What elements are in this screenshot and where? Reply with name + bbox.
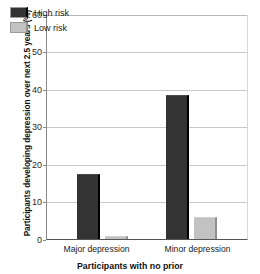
x-tick-label-minor-depression: Minor depression <box>147 244 248 254</box>
y-tick-label-10: 10 <box>16 198 42 207</box>
y-tick-label-40: 40 <box>16 86 42 95</box>
y-tick-label-20: 20 <box>16 161 42 170</box>
gridline-30 <box>47 127 247 128</box>
legend: High risk Low risk <box>10 6 69 34</box>
y-tick-label-30: 30 <box>16 123 42 132</box>
dark-swatch-icon <box>10 7 28 18</box>
x-axis-title: Participants with no prior <box>0 261 260 271</box>
legend-label-low-risk: Low risk <box>34 23 67 33</box>
bar-major-high-risk <box>77 174 100 239</box>
gridline-50 <box>47 52 247 53</box>
gridline-60 <box>47 15 247 16</box>
light-swatch-icon <box>10 22 28 33</box>
gridline-40 <box>47 90 247 91</box>
legend-label-high-risk: High risk <box>34 8 69 18</box>
bar-minor-high-risk <box>166 95 189 239</box>
y-tick-mark-0 <box>43 240 46 241</box>
legend-item-high-risk: High risk <box>10 6 69 19</box>
gridline-20 <box>47 165 247 166</box>
legend-item-low-risk: Low risk <box>10 21 69 34</box>
bar-major-low-risk <box>105 236 128 239</box>
y-tick-label-0: 0 <box>16 236 42 245</box>
plot-area <box>46 15 248 240</box>
bar-chart: Participants developing depression over … <box>0 0 260 274</box>
bar-minor-low-risk <box>194 217 217 239</box>
x-tick-label-major-depression: Major depression <box>46 244 147 254</box>
y-tick-label-50: 50 <box>16 48 42 57</box>
